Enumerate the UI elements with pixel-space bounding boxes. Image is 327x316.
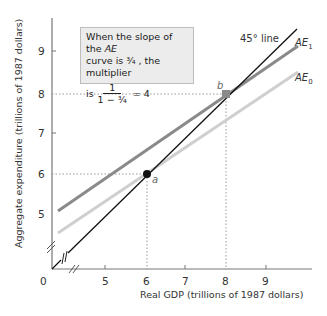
- note-line-2: curve is ³⁄₄ , the multiplier: [86, 55, 188, 79]
- y-tick-7: 7: [38, 127, 45, 139]
- line45-label: 45° line: [240, 33, 279, 44]
- x-axis-title: Real GDP (trillions of 1987 dollars): [140, 289, 304, 300]
- fraction: 1 1 − ³⁄₄: [98, 82, 127, 106]
- x-tick-9: 9: [262, 275, 269, 287]
- origin-label: 0: [40, 275, 47, 287]
- line45-break-icon: [62, 251, 67, 264]
- point-b-label: b: [217, 80, 223, 91]
- y-tick-6: 6: [38, 168, 45, 180]
- ae1-label: AE1: [294, 37, 313, 51]
- point-b-marker: [222, 90, 230, 98]
- y-tick-9: 9: [38, 45, 45, 57]
- note-result: = 4: [133, 88, 150, 100]
- y-axis-title: Aggregate expenditure (trillions of 1987…: [13, 19, 24, 248]
- x-tick-5: 5: [102, 275, 109, 287]
- y-tick-5: 5: [38, 208, 45, 220]
- note-is: is: [86, 88, 94, 100]
- line-45-degree: [52, 260, 61, 269]
- note-line-1: When the slope of the AE: [86, 31, 188, 55]
- fraction-denominator: 1 − ³⁄₄: [98, 94, 127, 106]
- point-a-label: a: [152, 174, 158, 185]
- ae0-label: AE0: [294, 72, 313, 86]
- point-a-marker: [143, 170, 151, 178]
- y-axis-break-icon: [47, 241, 55, 253]
- x-tick-7: 7: [182, 275, 189, 287]
- multiplier-note-box: When the slope of the AE curve is ³⁄₄ , …: [80, 27, 194, 84]
- x-tick-6: 6: [143, 275, 150, 287]
- note-formula: is 1 1 − ³⁄₄ = 4: [86, 82, 188, 106]
- x-tick-8: 8: [222, 275, 229, 287]
- fraction-numerator: 1: [103, 82, 121, 94]
- y-tick-8: 8: [38, 88, 45, 100]
